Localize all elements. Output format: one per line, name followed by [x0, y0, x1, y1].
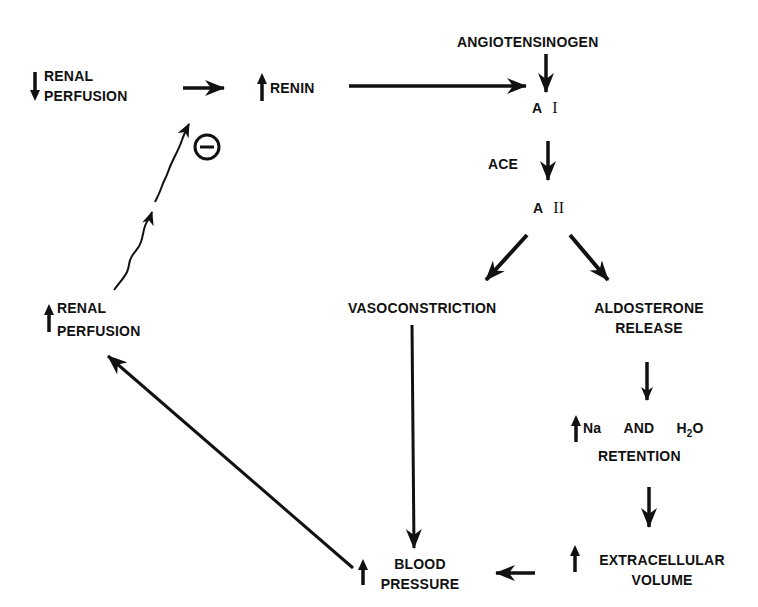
up-indicator-arrow-renal: [44, 304, 54, 332]
up-indicator-arrow-ecv: [570, 545, 580, 572]
pressure-label: PRESSURE: [370, 574, 470, 594]
node-angiotensin-2: AII: [533, 198, 564, 218]
node-renal-perfusion-decreased: RENAL PERFUSION: [44, 66, 127, 106]
blood-label: BLOOD: [370, 554, 470, 574]
node-angiotensinogen: ANGIOTENSINOGEN: [457, 32, 598, 52]
renal-label: RENAL: [44, 66, 127, 86]
up-indicator-arrow-na: [571, 415, 581, 442]
arrow-a2-to-aldosterone: [570, 235, 608, 280]
roman-numeral-2: II: [553, 199, 564, 216]
up-indicator-arrow-renin: [257, 73, 267, 101]
na-h2o-line: Na AND H2O: [583, 418, 704, 444]
node-angiotensin-1: AI: [532, 98, 558, 118]
node-renin: RENIN: [270, 78, 315, 98]
perfusion-label: PERFUSION: [44, 86, 127, 106]
wavy-feedback-arrow: [114, 124, 189, 290]
node-renal-perfusion-increased: RENAL PERFUSION: [57, 298, 140, 341]
h2o-label: H2O: [676, 420, 703, 436]
aldosterone-label: ALDOSTERONE: [583, 298, 715, 318]
up-indicator-arrow-bp: [358, 559, 368, 585]
angiotensin-prefix: A: [532, 100, 542, 116]
arrow-vasoconstriction-to-bp: [412, 325, 414, 548]
node-aldosterone-release: ALDOSTERONE RELEASE: [583, 298, 715, 338]
volume-label: VOLUME: [582, 570, 742, 590]
down-indicator-arrow-renal: [30, 72, 40, 101]
node-vasoconstriction: VASOCONSTRICTION: [348, 298, 496, 318]
arrow-a2-to-vasoconstriction: [486, 235, 527, 280]
release-label: RELEASE: [583, 318, 715, 338]
arrow-bp-to-renal-perfusion: [108, 356, 353, 568]
na-label: Na: [583, 420, 601, 436]
renal-label: RENAL: [57, 298, 140, 318]
angiotensin-prefix: A: [533, 200, 543, 216]
retention-label: RETENTION: [598, 446, 704, 466]
and-label: AND: [623, 420, 654, 436]
node-extracellular-volume: EXTRACELLULAR VOLUME: [582, 550, 742, 590]
node-na-h2o-retention: Na AND H2O RETENTION: [583, 418, 704, 466]
roman-numeral-1: I: [552, 99, 558, 116]
extracellular-label: EXTRACELLULAR: [582, 550, 742, 570]
node-blood-pressure: BLOOD PRESSURE: [370, 554, 470, 594]
perfusion-label: PERFUSION: [57, 321, 140, 341]
inhibition-minus-icon: [195, 135, 219, 159]
label-ace: ACE: [488, 154, 518, 174]
